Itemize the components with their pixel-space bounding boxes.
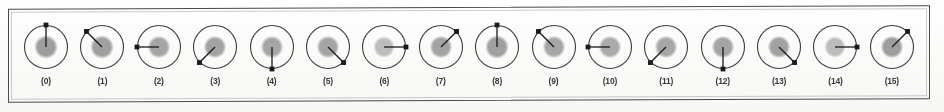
arrow-head	[855, 45, 860, 50]
arrow-head	[586, 45, 591, 50]
particle-cell: (3)	[189, 7, 241, 99]
particle-glyph	[528, 16, 580, 78]
particle-cell: (8)	[471, 7, 523, 99]
cell-index-label: (12)	[716, 76, 730, 86]
particle-glyph	[753, 16, 805, 78]
cell-index-label: (0)	[41, 76, 51, 86]
particle-glyph	[471, 16, 523, 78]
arrow-head	[905, 29, 910, 34]
cell-index-label: (15)	[885, 76, 899, 86]
direction-vector-icon	[133, 16, 185, 78]
particle-cell: (0)	[20, 7, 72, 99]
cell-index-label: (1)	[97, 76, 107, 86]
particle-cell: (10)	[584, 7, 636, 99]
particle-cell: (11)	[640, 7, 692, 99]
arrow-head	[720, 67, 725, 72]
particle-glyph	[133, 16, 185, 78]
direction-vector-icon	[246, 16, 298, 78]
particle-cell: (13)	[753, 7, 805, 99]
direction-vector-icon	[584, 16, 636, 78]
cell-index-label: (5)	[323, 76, 333, 86]
particle-glyph	[697, 16, 749, 78]
direction-vector-icon	[415, 16, 467, 78]
arrow-head	[269, 67, 274, 72]
arrow-head	[536, 29, 541, 34]
direction-vector-icon	[20, 16, 72, 78]
arrow-head	[454, 29, 459, 34]
particle-cell: (15)	[866, 7, 918, 99]
arrow-head	[197, 60, 202, 65]
particle-glyph	[809, 16, 861, 78]
direction-vector-icon	[358, 16, 410, 78]
particle-cell: (6)	[358, 7, 410, 99]
particle-cell: (9)	[528, 7, 580, 99]
particle-glyph	[584, 16, 636, 78]
direction-vector-icon	[528, 16, 580, 78]
direction-vector-icon	[809, 16, 861, 78]
arrow-head	[404, 45, 409, 50]
arrow-head	[44, 23, 49, 28]
cell-index-label: (9)	[549, 76, 559, 86]
particle-cell: (5)	[302, 7, 354, 99]
particle-cell: (14)	[809, 7, 861, 99]
particle-glyph	[866, 16, 918, 78]
particle-glyph	[415, 16, 467, 78]
particle-glyph	[189, 16, 241, 78]
arrow-head	[495, 23, 500, 28]
cell-index-label: (4)	[267, 76, 277, 86]
arrow-head	[792, 60, 797, 65]
arrow-head	[134, 45, 139, 50]
cell-index-label: (7)	[436, 76, 446, 86]
cell-index-label: (3)	[210, 76, 220, 86]
particle-glyph	[20, 16, 72, 78]
direction-vector-icon	[866, 16, 918, 78]
particle-glyph	[640, 16, 692, 78]
particle-cell: (4)	[246, 7, 298, 99]
arrow-head	[341, 60, 346, 65]
cell-index-label: (8)	[492, 76, 502, 86]
particle-cell: (1)	[76, 7, 128, 99]
particle-cell: (2)	[133, 7, 185, 99]
direction-vector-icon	[697, 16, 749, 78]
direction-vector-icon	[753, 16, 805, 78]
particle-cell: (12)	[697, 7, 749, 99]
figure-panel: (0)(1)(2)(3)(4)(5)(6)(7)(8)(9)(10)(11)(1…	[0, 0, 944, 112]
particle-glyph	[76, 16, 128, 78]
arrow-head	[648, 60, 653, 65]
cell-index-label: (10)	[603, 76, 617, 86]
direction-vector-icon	[76, 16, 128, 78]
cell-index-label: (2)	[154, 76, 164, 86]
particle-glyph	[246, 16, 298, 78]
direction-vector-icon	[640, 16, 692, 78]
cell-index-label: (13)	[772, 76, 786, 86]
particle-cell-row: (0)(1)(2)(3)(4)(5)(6)(7)(8)(9)(10)(11)(1…	[8, 7, 930, 101]
direction-vector-icon	[302, 16, 354, 78]
particle-cell: (7)	[415, 7, 467, 99]
arrow-head	[84, 29, 89, 34]
direction-vector-icon	[471, 16, 523, 78]
cell-index-label: (14)	[828, 76, 842, 86]
particle-glyph	[358, 16, 410, 78]
direction-vector-icon	[189, 16, 241, 78]
particle-glyph	[302, 16, 354, 78]
cell-index-label: (11)	[659, 76, 673, 86]
cell-index-label: (6)	[379, 76, 389, 86]
